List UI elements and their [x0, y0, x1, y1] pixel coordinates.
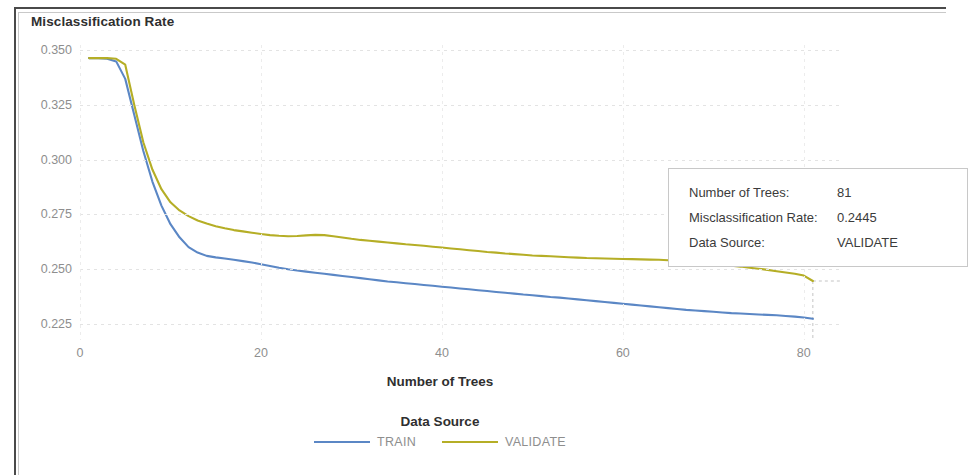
document-frame-top-border: [14, 7, 946, 9]
y-axis-tick-label: 0.250: [41, 262, 72, 276]
tooltip-row-label: Misclassification Rate:: [689, 205, 837, 230]
x-axis-tick-label: 20: [254, 346, 268, 360]
tooltip-row-value: 0.2445: [837, 205, 877, 230]
legend-entry-validate[interactable]: VALIDATE: [442, 435, 566, 449]
horizontal-gridline: [80, 50, 840, 51]
legend-label: VALIDATE: [505, 435, 566, 449]
legend: Data Source TRAINVALIDATE: [0, 414, 880, 449]
x-axis-tick-label: 60: [616, 346, 630, 360]
y-axis-tick-label: 0.350: [41, 43, 72, 57]
horizontal-gridline: [80, 105, 840, 106]
legend-swatch-train: [314, 441, 370, 444]
horizontal-gridline: [80, 269, 840, 270]
chart-title: Misclassification Rate: [31, 14, 174, 29]
legend-items: TRAINVALIDATE: [0, 435, 880, 449]
y-axis-tick-label: 0.225: [41, 317, 72, 331]
legend-label: TRAIN: [377, 435, 416, 449]
x-axis-ticks: 020406080: [80, 346, 840, 366]
x-axis-label: Number of Trees: [0, 374, 880, 389]
legend-title: Data Source: [0, 414, 880, 429]
vertical-gridline: [80, 45, 81, 340]
x-axis-tick-label: 0: [77, 346, 84, 360]
x-axis-tick-label: 40: [435, 346, 449, 360]
horizontal-gridline: [80, 324, 840, 325]
vertical-gridline: [623, 45, 624, 340]
vertical-gridline: [261, 45, 262, 340]
tooltip-row-label: Data Source:: [689, 230, 837, 255]
document-frame-inner-top: [18, 12, 946, 13]
tooltip-row-value: 81: [837, 180, 851, 205]
legend-swatch-validate: [442, 441, 498, 444]
x-axis-tick-label: 80: [797, 346, 811, 360]
tooltip-row-value: VALIDATE: [837, 230, 898, 255]
y-axis-tick-label: 0.275: [41, 207, 72, 221]
y-axis-ticks: 0.3500.3250.3000.2750.2500.225: [0, 45, 72, 340]
horizontal-gridline: [80, 160, 840, 161]
y-axis-tick-label: 0.300: [41, 153, 72, 167]
tooltip-row: Misclassification Rate:0.2445: [689, 205, 967, 230]
tooltip-row: Number of Trees:81: [689, 180, 967, 205]
tooltip-row-label: Number of Trees:: [689, 180, 837, 205]
data-tooltip: Number of Trees:81Misclassification Rate…: [668, 168, 968, 267]
vertical-gridline: [442, 45, 443, 340]
tooltip-row: Data Source:VALIDATE: [689, 230, 967, 255]
y-axis-tick-label: 0.325: [41, 98, 72, 112]
legend-entry-train[interactable]: TRAIN: [314, 435, 416, 449]
